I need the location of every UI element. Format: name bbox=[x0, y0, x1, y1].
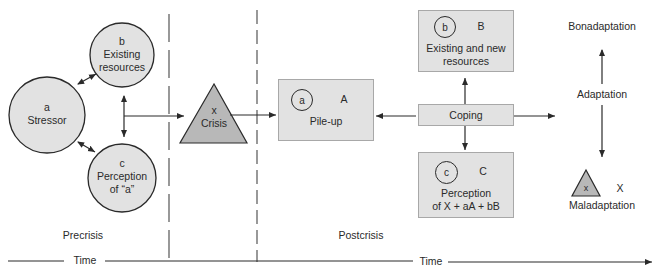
maladaptation-triangle-letter: x bbox=[578, 182, 594, 195]
stressor-label: Stressor bbox=[12, 114, 82, 127]
stressor-letter: a bbox=[12, 101, 82, 114]
crisis-label: Crisis bbox=[189, 117, 239, 130]
stressor-node: a Stressor bbox=[12, 101, 82, 127]
bonadaptation-label: Bonadaptation bbox=[557, 20, 647, 33]
maladaptation-letter: X bbox=[612, 182, 628, 195]
resources-label-2: resources bbox=[87, 61, 157, 74]
perception-letter: c bbox=[87, 157, 157, 170]
precrisis-label: Precrisis bbox=[48, 229, 118, 242]
perception-a-node: c Perception of “a” bbox=[87, 157, 157, 196]
perception-post-label-2: of X + aA + bB bbox=[419, 200, 513, 213]
coping-box: Coping bbox=[418, 104, 514, 126]
resources-ring: b bbox=[434, 16, 456, 38]
resources-letter-B: B bbox=[471, 20, 491, 33]
perception-ring: c bbox=[435, 161, 458, 184]
postcrisis-label: Postcrisis bbox=[326, 229, 396, 242]
perception-label-2: of “a” bbox=[87, 183, 157, 196]
pileup-box: a A Pile-up bbox=[278, 79, 374, 141]
stressor-resources-arrow bbox=[78, 74, 96, 84]
pileup-ring: a bbox=[291, 89, 313, 111]
pileup-letter: A bbox=[334, 93, 354, 106]
adaptation-label: Adaptation bbox=[557, 88, 647, 101]
crisis-node: x Crisis bbox=[189, 104, 239, 130]
resources-label-1: Existing and new bbox=[419, 42, 513, 55]
timeline-label-left: Time bbox=[66, 254, 104, 267]
resources-letter: b bbox=[87, 35, 157, 48]
resources-label-2: resources bbox=[419, 55, 513, 68]
pileup-label: Pile-up bbox=[279, 115, 373, 128]
stressor-perception-arrow bbox=[78, 142, 95, 152]
perception-post-label-1: Perception bbox=[419, 187, 513, 200]
crisis-letter: x bbox=[189, 104, 239, 117]
perception-box: c C Perception of X + aA + bB bbox=[418, 152, 514, 218]
resources-label-1: Existing bbox=[87, 48, 157, 61]
new-resources-box: b B Existing and new resources bbox=[418, 10, 514, 72]
existing-resources-node: b Existing resources bbox=[87, 35, 157, 74]
coping-label: Coping bbox=[419, 109, 513, 122]
maladaptation-label: Maladaptation bbox=[557, 199, 647, 212]
timeline-label-right: Time bbox=[412, 255, 450, 268]
perception-label-1: Perception bbox=[87, 170, 157, 183]
perception-letter-C: C bbox=[473, 165, 493, 178]
